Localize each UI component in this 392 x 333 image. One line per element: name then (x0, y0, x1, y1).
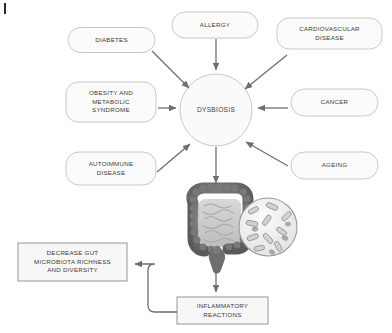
bacteria-magnifier-icon (239, 198, 297, 256)
factor-node-diabetes[interactable] (68, 28, 155, 53)
factor-node-cardiovascular[interactable] (277, 18, 382, 49)
diagram-canvas: DIABETES ALLERGY CARDIOVASCULAR DISEASE … (0, 0, 392, 333)
diagram-vector-layer (0, 0, 392, 333)
arrow-autoimmune-to-dysbiosis (157, 144, 190, 172)
arrow-cardiovascular-to-dysbiosis (245, 55, 287, 89)
arrow-inflammatory-to-decrease (135, 264, 177, 312)
outcome-node-inflammatory[interactable] (177, 297, 268, 324)
factor-node-autoimmune[interactable] (66, 152, 156, 185)
arrow-diabetes-to-dysbiosis (152, 51, 189, 88)
outcome-node-decrease-microbiota[interactable] (18, 243, 127, 281)
factor-node-allergy[interactable] (172, 12, 258, 38)
gut-illustration (189, 184, 297, 274)
small-intestine-icon (199, 199, 241, 247)
arrow-ageing-to-dysbiosis (246, 142, 288, 166)
factor-node-obesity[interactable] (66, 82, 156, 122)
factor-node-cancer[interactable] (291, 89, 378, 116)
center-node-dysbiosis[interactable] (180, 74, 252, 146)
factor-node-ageing[interactable] (291, 152, 378, 179)
